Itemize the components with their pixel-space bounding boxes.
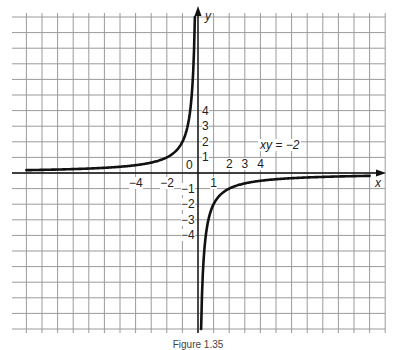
y-tick-label: −1: [181, 183, 195, 195]
origin-label: 0: [186, 159, 193, 171]
y-tick-label: 4: [202, 105, 209, 117]
x-tick-label: 1: [210, 177, 217, 189]
y-axis-arrow-icon: [195, 6, 202, 16]
x-tick-label: −2: [160, 177, 174, 189]
y-tick-label: −3: [181, 214, 195, 226]
x-axis-label: x: [375, 177, 381, 189]
x-tick-label: −4: [129, 177, 143, 189]
y-tick-label: −2: [181, 198, 195, 210]
y-tick-label: 1: [202, 151, 209, 163]
y-tick-label: 2: [202, 136, 209, 148]
equation-label: xy = −2: [258, 139, 301, 151]
x-tick-label: 2: [226, 158, 233, 170]
curve-branch-1: [26, 17, 194, 170]
y-axis-label: y: [205, 10, 211, 22]
y-tick-label: −4: [181, 229, 195, 241]
y-tick-label: 3: [202, 120, 209, 132]
x-tick-label: 3: [242, 158, 249, 170]
figure-caption: Figure 1.35: [0, 339, 396, 350]
curve-branch-2: [201, 176, 369, 329]
x-tick-label: 4: [257, 158, 264, 170]
